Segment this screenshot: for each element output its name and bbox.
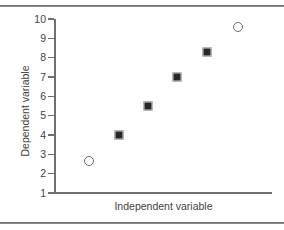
data-point-filled-square — [202, 47, 211, 56]
y-tick-label: 10 — [34, 14, 46, 25]
data-point-filled-square — [114, 131, 123, 140]
data-point-filled-square — [173, 73, 182, 82]
x-axis-title: Independent variable — [55, 200, 272, 212]
y-tick-mark — [48, 192, 54, 193]
y-tick-label: 4 — [40, 130, 46, 141]
y-axis-title: Dependent variable — [19, 36, 31, 186]
y-tick-label: 7 — [40, 72, 46, 83]
y-tick-label: 8 — [40, 52, 46, 63]
y-tick-mark — [48, 173, 54, 174]
y-tick-label: 3 — [40, 149, 46, 160]
data-point-open-circle — [84, 156, 94, 166]
y-tick-label: 5 — [40, 110, 46, 121]
y-tick-mark — [48, 154, 54, 155]
y-tick-mark — [48, 115, 54, 116]
plot-area — [55, 19, 272, 193]
y-tick-mark — [48, 57, 54, 58]
y-tick-mark — [48, 38, 54, 39]
y-tick-label: 2 — [40, 168, 46, 179]
y-tick-mark — [48, 18, 54, 19]
y-tick-mark — [48, 134, 54, 135]
y-tick-mark — [48, 96, 54, 97]
data-point-filled-square — [144, 102, 153, 111]
y-tick-mark — [48, 76, 54, 77]
scatter-chart-figure: 10987654321 Dependent variable Independe… — [0, 0, 284, 230]
data-point-open-circle — [233, 22, 243, 32]
y-tick-label: 6 — [40, 91, 46, 102]
y-tick-label: 1 — [40, 188, 46, 199]
y-tick-label: 9 — [40, 33, 46, 44]
